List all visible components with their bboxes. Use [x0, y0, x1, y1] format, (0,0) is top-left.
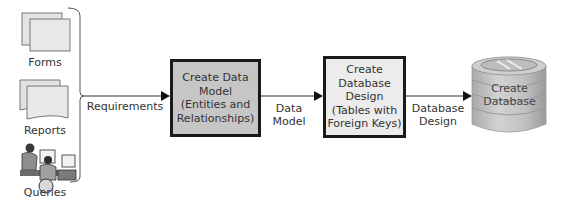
step-label: Create Data Model (Entities and Relation…	[177, 71, 255, 125]
step-create-data-model: Create Data Model (Entities and Relation…	[170, 59, 261, 137]
flow-label-database-design: Database Design	[408, 102, 468, 128]
step-label: Create Database Design (Tables with Fore…	[327, 63, 401, 131]
input-label-forms: Forms	[20, 56, 70, 69]
flow-label-requirements: Requirements	[84, 100, 166, 113]
forms-document-icon	[22, 13, 70, 51]
input-label-reports: Reports	[18, 124, 72, 137]
output-label-create-database: Create Database	[472, 82, 547, 108]
input-label-queries: Queries	[16, 186, 74, 199]
reports-document-icon	[20, 80, 68, 119]
flow-label-data-model: Data Model	[263, 102, 315, 128]
step-create-database-design: Create Database Design (Tables with Fore…	[323, 56, 406, 138]
